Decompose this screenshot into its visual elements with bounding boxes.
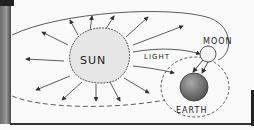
earth-label: EARTH	[176, 106, 207, 115]
sun: SUN	[70, 28, 130, 83]
light-label: LIGHT	[144, 53, 170, 61]
moon-label: MOON	[203, 37, 232, 46]
diagram-frame: SUN LIGHT MOON EARTH	[0, 0, 254, 130]
sun-earth-moon-diagram: SUN LIGHT MOON EARTH	[0, 0, 254, 130]
sun-label: SUN	[80, 54, 106, 67]
earth: EARTH	[176, 73, 208, 115]
